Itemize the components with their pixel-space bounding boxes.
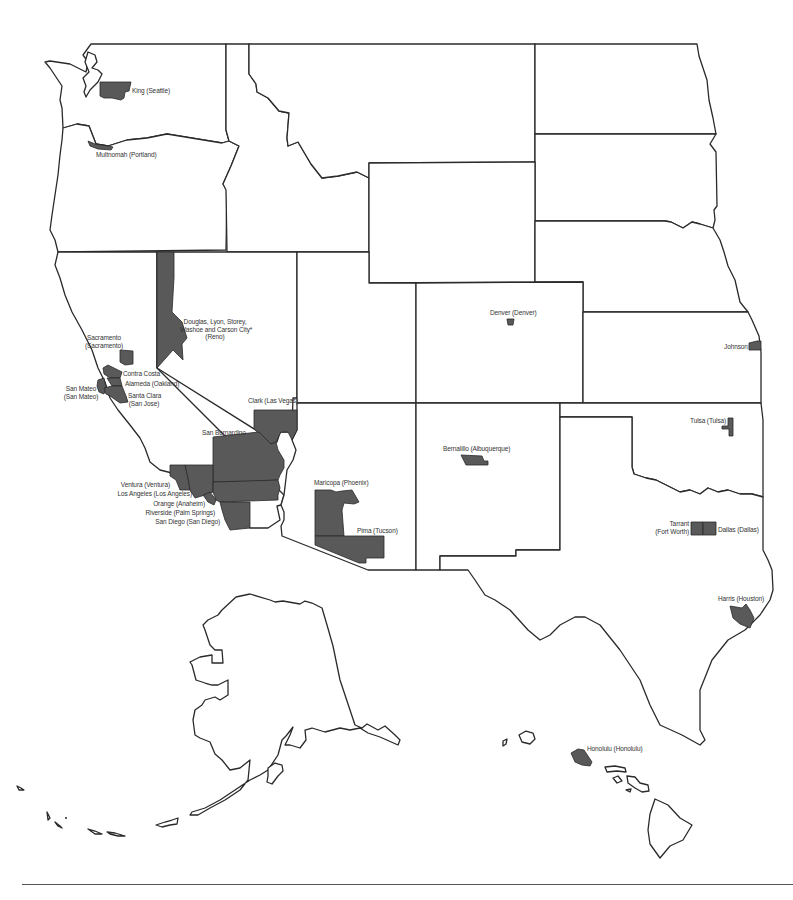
hawaii-kauai bbox=[519, 731, 535, 744]
label-alameda: Alameda (Oakland) bbox=[125, 380, 179, 388]
label-tarrant-line2: (Fort Worth) bbox=[650, 528, 689, 536]
label-reno-line1: Douglas, Lyon, Storey, bbox=[180, 318, 250, 326]
label-tarrant: Tarrant (Fort Worth) bbox=[650, 520, 689, 535]
hawaii-lanai bbox=[613, 776, 622, 783]
alaska-island bbox=[88, 829, 102, 834]
state-kansas bbox=[583, 312, 761, 403]
alaska-island bbox=[107, 832, 125, 836]
hawaii-niihau bbox=[503, 739, 507, 746]
bottom-rule bbox=[22, 884, 793, 885]
alaska-island bbox=[156, 818, 178, 827]
label-sacramento: Sacramento (Sacramento) bbox=[84, 334, 124, 349]
label-sacramento-line2: (Sacramento) bbox=[84, 342, 124, 350]
state-colorado bbox=[416, 282, 583, 403]
county-sacramento bbox=[120, 350, 133, 365]
label-reno: Douglas, Lyon, Storey, Washoe and Carson… bbox=[180, 318, 250, 341]
hawaii-molokai bbox=[605, 766, 626, 772]
label-honolulu: Honolulu (Honolulu) bbox=[587, 745, 643, 753]
label-reno-line3: (Reno) bbox=[180, 333, 250, 341]
county-riverside bbox=[213, 480, 280, 502]
label-santa-clara-line2: (San Jose) bbox=[128, 400, 160, 408]
label-santa-clara-line1: Santa Clara bbox=[128, 392, 160, 400]
label-san-mateo: San Mateo (San Mateo) bbox=[63, 385, 99, 400]
label-san-bernardino: San Bernardino bbox=[202, 429, 246, 437]
label-reno-line2: Washoe and Carson City* bbox=[180, 326, 250, 334]
label-pima: Pima (Tucson) bbox=[357, 527, 398, 535]
label-ventura: Ventura (Ventura) bbox=[100, 481, 170, 489]
label-tulsa: Tulsa (Tulsa) bbox=[690, 417, 726, 425]
label-denver: Denver (Denver) bbox=[490, 309, 537, 317]
state-wyoming bbox=[369, 162, 535, 283]
state-south-dakota bbox=[535, 134, 717, 228]
label-maricopa: Maricopa (Phoenix) bbox=[314, 479, 369, 487]
map-canvas bbox=[0, 0, 793, 900]
label-harris: Harris (Houston) bbox=[718, 595, 764, 603]
state-north-dakota bbox=[535, 44, 716, 134]
label-orange: Orange (Anaheim) bbox=[120, 500, 205, 508]
label-san-mateo-line2: (San Mateo) bbox=[63, 393, 99, 401]
alaska-island bbox=[47, 812, 50, 820]
county-tarrant bbox=[691, 522, 703, 535]
label-clark: Clark (Las Vegas) bbox=[248, 397, 298, 405]
label-riverside: Riverside (Palm Springs) bbox=[120, 509, 215, 517]
state-oregon bbox=[50, 124, 239, 252]
label-contra-costa: Contra Costa bbox=[123, 370, 160, 378]
label-san-mateo-line1: San Mateo bbox=[63, 385, 99, 393]
label-santa-clara: Santa Clara (San Jose) bbox=[128, 392, 160, 407]
alaska-island bbox=[17, 786, 24, 790]
county-san-diego bbox=[220, 502, 250, 530]
label-king: King (Seattle) bbox=[132, 87, 170, 95]
state-new-mexico bbox=[416, 403, 560, 570]
hawaii-big-island bbox=[648, 799, 692, 858]
label-tarrant-line1: Tarrant bbox=[650, 520, 689, 528]
county-johnson bbox=[749, 341, 761, 350]
alaska-island bbox=[55, 822, 62, 828]
county-dallas bbox=[703, 522, 716, 535]
hawaii-kahoolawe bbox=[626, 789, 631, 792]
county-denver bbox=[507, 319, 514, 325]
state-alaska bbox=[190, 594, 400, 815]
alaska-island bbox=[65, 817, 67, 819]
label-johnson: Johnson bbox=[724, 343, 748, 351]
label-multnomah: Multnomah (Portland) bbox=[96, 151, 157, 159]
label-bernalillo: Bernalillo (Albuquerque) bbox=[443, 445, 510, 453]
label-los-angeles: Los Angeles (Los Angeles) bbox=[92, 490, 192, 498]
label-dallas: Dallas (Dallas) bbox=[718, 526, 759, 534]
label-sacramento-line1: Sacramento bbox=[84, 334, 124, 342]
label-san-diego: San Diego (San Diego) bbox=[120, 518, 220, 526]
